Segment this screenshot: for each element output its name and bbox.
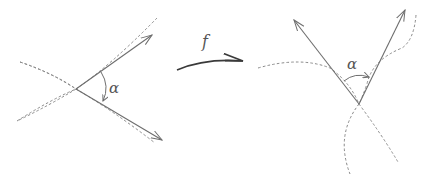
left-dashed-curve-2: [17, 89, 155, 143]
right-angle-arc: [344, 75, 369, 81]
left-angle-arc: [101, 72, 106, 101]
conformal-map-diagram: [0, 0, 428, 181]
left-figure: [17, 18, 162, 143]
mapping-label-f: f: [202, 34, 208, 50]
left-angle-label: α: [109, 81, 119, 96]
left-dashed-curve-1: [20, 18, 157, 89]
right-dashed-curve-2: [359, 15, 416, 162]
right-angle-label: α: [347, 57, 357, 72]
mapping-arrow-curve: [177, 60, 243, 70]
right-figure: [258, 10, 416, 174]
mapping-arrow: [177, 60, 243, 70]
right-tangent-vector-right: [359, 10, 405, 104]
right-dashed-curve-1: [258, 62, 359, 174]
left-dashed-curve-upper: [17, 62, 76, 121]
left-tangent-vector-lower: [76, 89, 162, 140]
